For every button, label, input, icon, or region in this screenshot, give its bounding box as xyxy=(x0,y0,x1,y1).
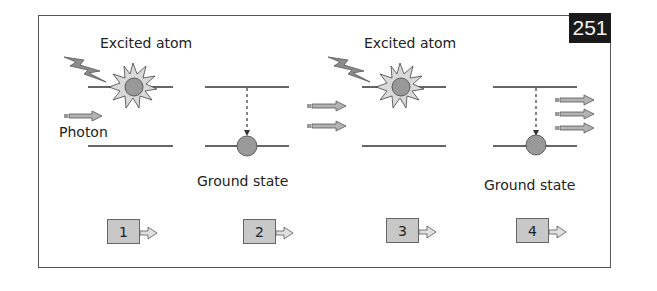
excited-atom-label: Excited atom xyxy=(100,35,192,51)
step-2-box: 2 xyxy=(243,219,276,244)
photon-pair-arrow-icon xyxy=(307,101,346,131)
lightning-icon xyxy=(64,57,106,82)
step-4-box: 4 xyxy=(516,218,549,243)
ground-atom-icon xyxy=(237,136,257,156)
ground-state-label: Ground state xyxy=(484,177,575,193)
decay-arrowhead-2 xyxy=(244,130,250,136)
lightning-icon xyxy=(328,57,370,82)
excited-atom-label: Excited atom xyxy=(364,35,456,51)
step-arrow-icon xyxy=(140,226,566,239)
starburst-icon xyxy=(376,63,424,108)
ground-state-label: Ground state xyxy=(197,173,288,189)
photon-arrow-icon xyxy=(64,111,102,121)
step-3-box: 3 xyxy=(386,218,419,243)
photon-label: Photon xyxy=(59,124,108,140)
photon-triple-arrow-icon xyxy=(555,95,594,133)
page-number-badge: 251 xyxy=(569,13,611,43)
step-1-box: 1 xyxy=(107,219,140,244)
diagram-graphics xyxy=(0,0,657,291)
ground-atom-icon xyxy=(526,135,546,155)
starburst-icon xyxy=(109,63,157,108)
